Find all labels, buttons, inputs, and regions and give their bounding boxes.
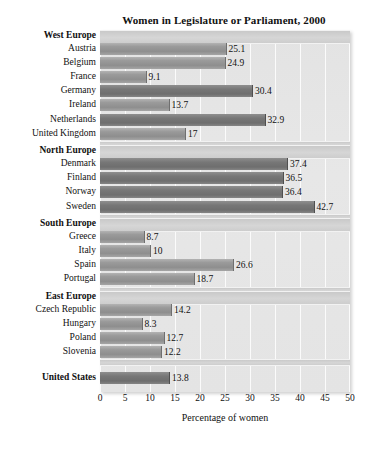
category-label: Belgium <box>0 58 96 68</box>
bar-value-label: 17 <box>185 129 198 139</box>
x-tick-label: 25 <box>220 393 230 403</box>
bar <box>100 372 170 384</box>
bar-value-label: 42.7 <box>314 202 334 212</box>
category-label: Slovenia <box>0 347 96 357</box>
bar-row: 25.1 <box>100 42 350 56</box>
x-tick-label: 0 <box>98 393 103 403</box>
category-label: Sweden <box>0 202 96 212</box>
bar-row: 9.1 <box>100 70 350 84</box>
bar-value-label: 25.1 <box>226 44 246 54</box>
bar-value-label: 9.1 <box>146 72 161 82</box>
bar-rows: 25.124.99.130.413.732.91737.436.536.442.… <box>100 30 350 392</box>
bar-row: 42.7 <box>100 200 350 214</box>
x-tick-label: 15 <box>170 393 180 403</box>
x-axis-title: Percentage of women <box>100 412 350 423</box>
group-label: East Europe <box>0 292 96 302</box>
bar <box>100 114 266 126</box>
group-label: North Europe <box>0 146 96 156</box>
category-label: Denmark <box>0 159 96 169</box>
group-separator-band <box>100 359 350 366</box>
category-label: Italy <box>0 246 96 256</box>
category-label: United States <box>0 373 96 383</box>
bar-row: 26.6 <box>100 258 350 272</box>
bar <box>100 346 162 358</box>
bar-row: 8.3 <box>100 317 350 331</box>
group-label: South Europe <box>0 219 96 229</box>
bar <box>100 85 253 97</box>
x-tick-label: 40 <box>295 393 305 403</box>
group-label: West Europe <box>0 31 96 41</box>
bar-value-label: 30.4 <box>252 86 272 96</box>
bar <box>100 99 170 111</box>
category-label: Hungary <box>0 319 96 329</box>
bar-row: 36.5 <box>100 171 350 185</box>
category-label: Austria <box>0 44 96 54</box>
x-tick-label: 5 <box>123 393 128 403</box>
x-tick-label: 10 <box>145 393 155 403</box>
bar-value-label: 32.9 <box>265 115 285 125</box>
category-label: United Kingdom <box>0 129 96 139</box>
x-tick-label: 20 <box>195 393 205 403</box>
bar <box>100 201 315 213</box>
x-axis-ticks: 05101520253035404550 <box>100 393 350 409</box>
bar <box>100 158 288 170</box>
category-label: France <box>0 72 96 82</box>
category-label: Finland <box>0 173 96 183</box>
category-label: Czech Republic <box>0 305 96 315</box>
bar-value-label: 8.3 <box>142 319 157 329</box>
bar-value-label: 36.4 <box>282 187 302 197</box>
category-label: Ireland <box>0 100 96 110</box>
x-tick-label: 45 <box>320 393 330 403</box>
bar <box>100 186 283 198</box>
bar-row: 17 <box>100 127 350 141</box>
category-label: Greece <box>0 232 96 242</box>
bar <box>100 273 195 285</box>
bar-value-label: 18.7 <box>194 274 214 284</box>
bar <box>100 245 151 257</box>
bar <box>100 304 172 316</box>
bar-value-label: 26.6 <box>233 260 253 270</box>
bar-row: 14.2 <box>100 303 350 317</box>
bar-row: 32.9 <box>100 113 350 127</box>
category-label: Poland <box>0 333 96 343</box>
bar-row: 8.7 <box>100 230 350 244</box>
bar-row: 12.2 <box>100 345 350 359</box>
bar-row: 10 <box>100 244 350 258</box>
bar <box>100 71 147 83</box>
bar-row: 24.9 <box>100 56 350 70</box>
bar-value-label: 24.9 <box>225 58 245 68</box>
x-tick-label: 35 <box>270 393 280 403</box>
bar-value-label: 12.2 <box>161 347 181 357</box>
chart-title: Women in Legislature or Parliament, 2000 <box>96 14 352 26</box>
bar <box>100 128 186 140</box>
bar <box>100 172 284 184</box>
bar-value-label: 13.8 <box>169 373 189 383</box>
x-tick-label: 30 <box>245 393 255 403</box>
bar <box>100 259 234 271</box>
bar-value-label: 37.4 <box>287 159 307 169</box>
category-label: Portugal <box>0 274 96 284</box>
category-label: Norway <box>0 187 96 197</box>
bar-row: 18.7 <box>100 272 350 286</box>
bar-value-label: 8.7 <box>144 232 159 242</box>
category-label: Netherlands <box>0 115 96 125</box>
bar-row: 12.7 <box>100 331 350 345</box>
bar-row: 13.8 <box>100 371 350 385</box>
bar-row: 13.7 <box>100 98 350 112</box>
bar-row: 36.4 <box>100 185 350 199</box>
bar-value-label: 10 <box>150 246 163 256</box>
bar <box>100 332 165 344</box>
bar-value-label: 36.5 <box>283 173 303 183</box>
bar-row: 37.4 <box>100 157 350 171</box>
bar-value-label: 13.7 <box>169 100 189 110</box>
category-label: Germany <box>0 86 96 96</box>
bar <box>100 231 145 243</box>
category-label: Spain <box>0 260 96 270</box>
bar-value-label: 12.7 <box>164 333 184 343</box>
bar-row: 30.4 <box>100 84 350 98</box>
bar <box>100 57 226 69</box>
bar <box>100 318 143 330</box>
chart-figure: Women in Legislature or Parliament, 2000… <box>0 0 368 450</box>
bar <box>100 43 227 55</box>
x-tick-label: 50 <box>345 393 355 403</box>
